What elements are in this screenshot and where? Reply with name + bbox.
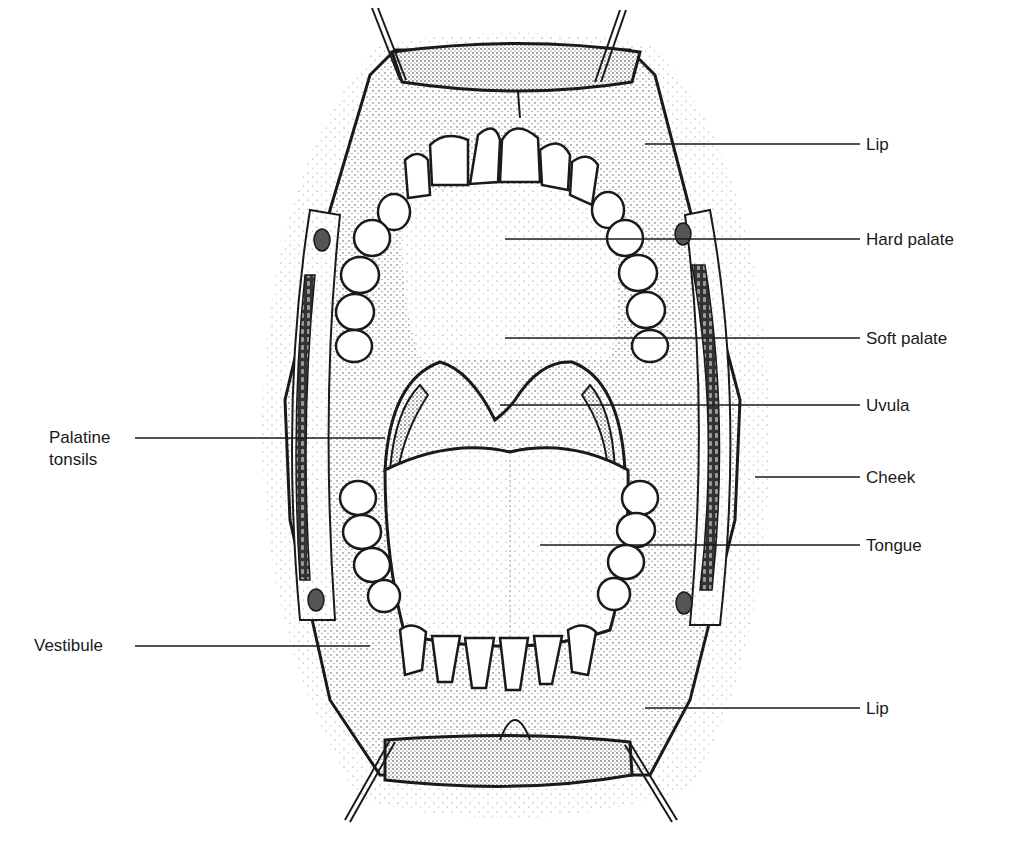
label-soft-palate: Soft palate <box>866 329 947 349</box>
label-tongue: Tongue <box>866 536 922 556</box>
label-lip-lower: Lip <box>866 699 889 719</box>
label-hard-palate: Hard palate <box>866 230 954 250</box>
hard-palate <box>402 185 618 360</box>
oral-cavity-diagram <box>0 0 1023 862</box>
tongue <box>385 448 628 647</box>
label-palatine-tonsils-line2: tonsils <box>49 450 97 470</box>
label-cheek: Cheek <box>866 468 915 488</box>
label-vestibule: Vestibule <box>34 636 103 656</box>
label-uvula: Uvula <box>866 396 909 416</box>
label-palatine-tonsils-line1: Palatine <box>49 428 110 448</box>
label-lip-upper: Lip <box>866 135 889 155</box>
